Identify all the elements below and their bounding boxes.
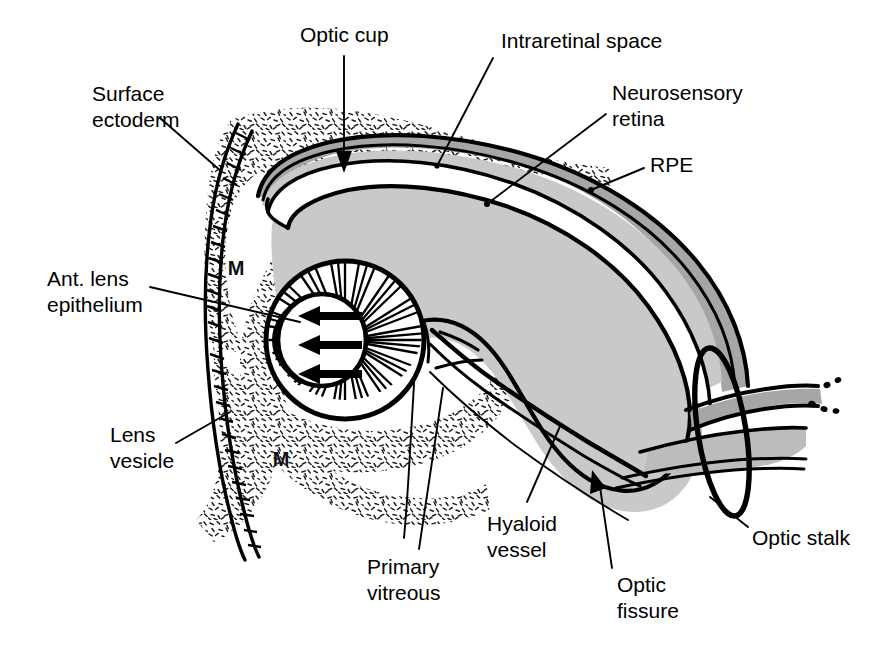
diagram-canvas: Optic cup Intraretinal space Neurosensor… xyxy=(0,0,887,647)
lens-vesicle-group xyxy=(266,261,428,419)
label-intraretinal-space: Intraretinal space xyxy=(501,29,662,52)
leader-dot-intraretinal-space xyxy=(434,163,439,168)
leader-dot-rpe xyxy=(588,187,594,193)
label-mesenchyme-lower: M xyxy=(273,448,290,470)
label-optic-stalk: Optic stalk xyxy=(752,526,851,549)
optic-cup-diagram: Optic cup Intraretinal space Neurosensor… xyxy=(0,0,887,647)
lens-fiber-arrows xyxy=(298,306,362,384)
label-rpe: RPE xyxy=(650,153,693,176)
label-optic-cup: Optic cup xyxy=(300,23,389,46)
leader-dot-neurosensory-retina xyxy=(484,201,490,207)
label-mesenchyme-upper: M xyxy=(228,257,245,279)
